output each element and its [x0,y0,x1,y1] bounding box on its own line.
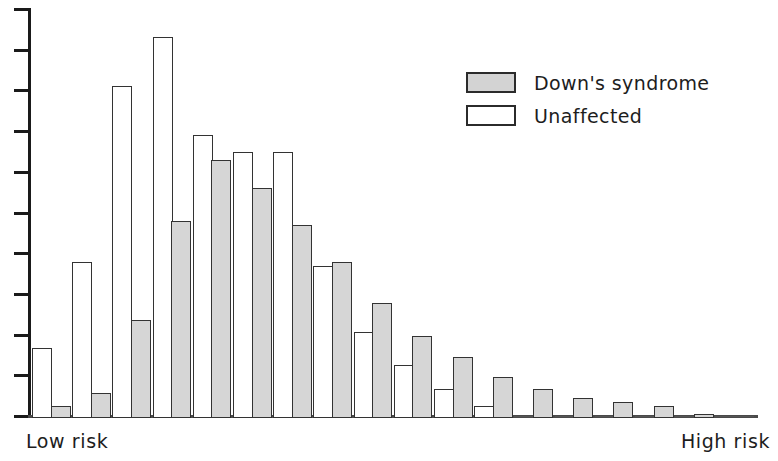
bar-downs-syndrome [51,406,71,418]
bar-unaffected [434,389,454,418]
bar-unaffected [474,406,494,418]
bar-downs-syndrome [533,389,553,418]
bar-group [354,8,394,418]
legend-label-downs: Down's syndrome [534,72,709,94]
bar-unaffected [715,416,735,418]
bar-unaffected [675,416,695,418]
bar-downs-syndrome [332,262,352,418]
bar-unaffected [32,348,52,418]
bar-unaffected [233,152,253,419]
bar-group [233,8,273,418]
bar-unaffected [514,416,534,418]
bar-unaffected [354,332,374,418]
bar-downs-syndrome [211,160,231,418]
bar-unaffected [595,416,615,418]
bar-downs-syndrome [131,320,151,418]
axis-label-low-risk: Low risk [26,430,108,452]
bar-downs-syndrome [493,377,513,418]
bar-unaffected [72,262,92,418]
bar-downs-syndrome [734,416,754,418]
bar-downs-syndrome [372,303,392,418]
bar-unaffected [273,152,293,419]
bar-unaffected [394,365,414,418]
bar-group [153,8,193,418]
bar-downs-syndrome [91,393,111,418]
legend-item-unaffected: Unaffected [466,99,766,132]
bar-downs-syndrome [654,406,674,418]
bar-group [273,8,313,418]
bar-group [32,8,72,418]
legend-item-downs-syndrome: Down's syndrome [466,66,766,99]
bar-group [112,8,152,418]
bar-unaffected [313,266,333,418]
bar-downs-syndrome [453,357,473,419]
chart-legend: Down's syndrome Unaffected [466,66,766,132]
bar-downs-syndrome [292,225,312,418]
legend-swatch-downs-icon [466,72,516,93]
bar-unaffected [193,135,213,418]
bar-unaffected [112,86,132,418]
bar-unaffected [153,37,173,418]
axis-label-high-risk: High risk [681,430,770,452]
legend-label-unaffected: Unaffected [534,105,642,127]
legend-swatch-unaffected-icon [466,105,516,126]
bar-downs-syndrome [613,402,633,418]
bar-group [313,8,353,418]
bar-downs-syndrome [252,188,272,418]
bar-group [193,8,233,418]
bar-group [394,8,434,418]
bar-group [72,8,112,418]
bar-downs-syndrome [573,398,593,419]
bar-downs-syndrome [412,336,432,418]
bar-unaffected [555,416,575,418]
bar-unaffected [635,416,655,418]
bar-downs-syndrome [171,221,191,418]
bar-downs-syndrome [694,414,714,418]
risk-distribution-chart: Down's syndrome Unaffected Low risk High… [0,0,778,461]
